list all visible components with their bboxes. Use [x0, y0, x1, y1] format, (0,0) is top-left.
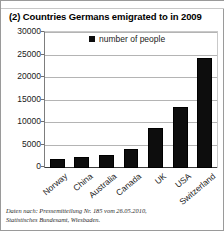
y-axis-tick-label: 15000 [17, 94, 41, 104]
gridline [45, 77, 217, 78]
gridline [45, 55, 217, 56]
y-axis-tick-label: 5000 [22, 139, 41, 149]
plot-area [44, 31, 218, 168]
gridline [45, 122, 217, 123]
y-axis-tick-label: 30000 [17, 26, 41, 36]
bar [50, 159, 65, 168]
source-note: Daten nach: Pressemitteilung Nr. 185 vom… [6, 207, 147, 224]
source-note-line-2: Statistisches Bundesamt, Wiesbaden. [6, 216, 147, 224]
x-axis-tick-label: Canada [114, 171, 143, 198]
x-axis-tick-label: Norway [41, 171, 69, 197]
x-axis-tick-label: UK [152, 171, 167, 186]
gridline [45, 145, 217, 146]
y-axis: 300002500020000150001000050000 [1, 31, 41, 168]
bar [124, 149, 139, 168]
legend-label: number of people [99, 34, 165, 44]
chart-figure: (2) Countries Germans emigrated to in 20… [0, 0, 224, 231]
y-axis-tick-label: 20000 [17, 71, 41, 81]
x-axis-labels: NorwayChinaAustraliaCanadaUKUSASwitzerla… [44, 169, 218, 203]
bar [197, 58, 212, 168]
chart-title: (2) Countries Germans emigrated to in 20… [9, 11, 202, 22]
bar [148, 128, 163, 169]
legend-swatch-icon [89, 36, 95, 42]
y-axis-tick-label: 25000 [17, 49, 41, 59]
y-axis-tick-label: 10000 [17, 116, 41, 126]
gridline [45, 32, 217, 33]
cropped-text-strip-above [1, 1, 224, 9]
bar [173, 107, 188, 168]
chart-legend: number of people [89, 34, 165, 44]
bar [74, 157, 89, 168]
bar [99, 155, 114, 169]
gridline [45, 100, 217, 101]
source-note-line-1: Daten nach: Pressemitteilung Nr. 185 vom… [6, 207, 147, 215]
